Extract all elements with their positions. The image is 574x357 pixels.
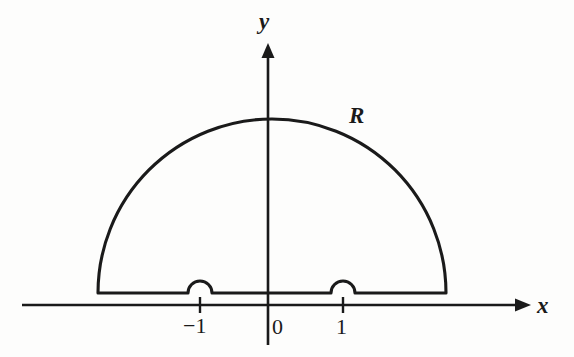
tick-label-one: 1 xyxy=(336,316,347,338)
y-axis-label: y xyxy=(259,10,269,33)
x-axis xyxy=(22,299,531,312)
contour-path xyxy=(98,119,446,293)
y-axis-arrowhead xyxy=(262,43,275,58)
contour-label-R: R xyxy=(349,104,364,127)
y-axis xyxy=(262,43,275,345)
x-axis-arrowhead xyxy=(515,299,531,312)
contour-figure: y x R −1 0 1 xyxy=(0,0,574,357)
x-axis-label: x xyxy=(537,294,549,317)
contour-diagram-svg xyxy=(0,0,574,357)
origin-label: 0 xyxy=(272,316,283,338)
tick-label-neg-one: −1 xyxy=(183,315,206,337)
